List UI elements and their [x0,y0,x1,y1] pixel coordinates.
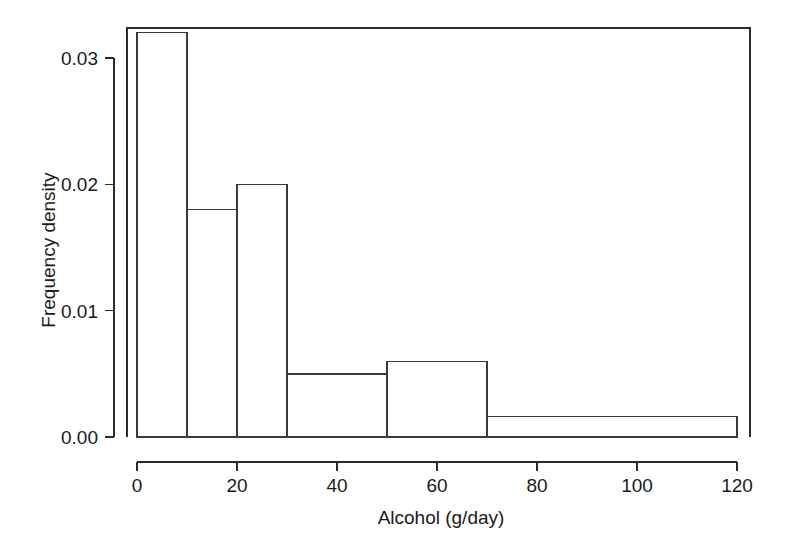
x-axis-tick-label: 100 [621,475,653,496]
bars-group [137,33,737,437]
y-axis-tick-label: 0.02 [61,174,98,195]
plot-frame-path [127,28,750,437]
x-axis: 020406080100120 [132,462,753,496]
histogram-bar [487,417,737,437]
x-axis-tick-label: 20 [226,475,247,496]
x-axis-tick-label: 80 [526,475,547,496]
x-axis-title: Alcohol (g/day) [378,507,505,528]
y-axis-tick-label: 0.03 [61,48,98,69]
histogram-bar [187,210,237,437]
histogram-bar [287,374,387,437]
x-axis-tick-label: 0 [132,475,143,496]
x-axis-tick-label: 120 [721,475,753,496]
histogram-bar [137,33,187,437]
histogram-bar [387,361,487,437]
y-axis-tick-label: 0.00 [61,427,98,448]
histogram-bar [237,184,287,437]
histogram-figure: 020406080100120 0.000.010.020.03 Alcohol… [0,0,794,554]
y-axis-title: Frequency density [38,172,59,328]
y-axis-tick-label: 0.01 [61,301,98,322]
y-axis: 0.000.010.020.03 [61,48,114,448]
plot-frame [127,28,750,437]
plot-canvas: 020406080100120 0.000.010.020.03 Alcohol… [0,0,794,554]
x-axis-tick-label: 60 [426,475,447,496]
x-axis-tick-label: 40 [326,475,347,496]
